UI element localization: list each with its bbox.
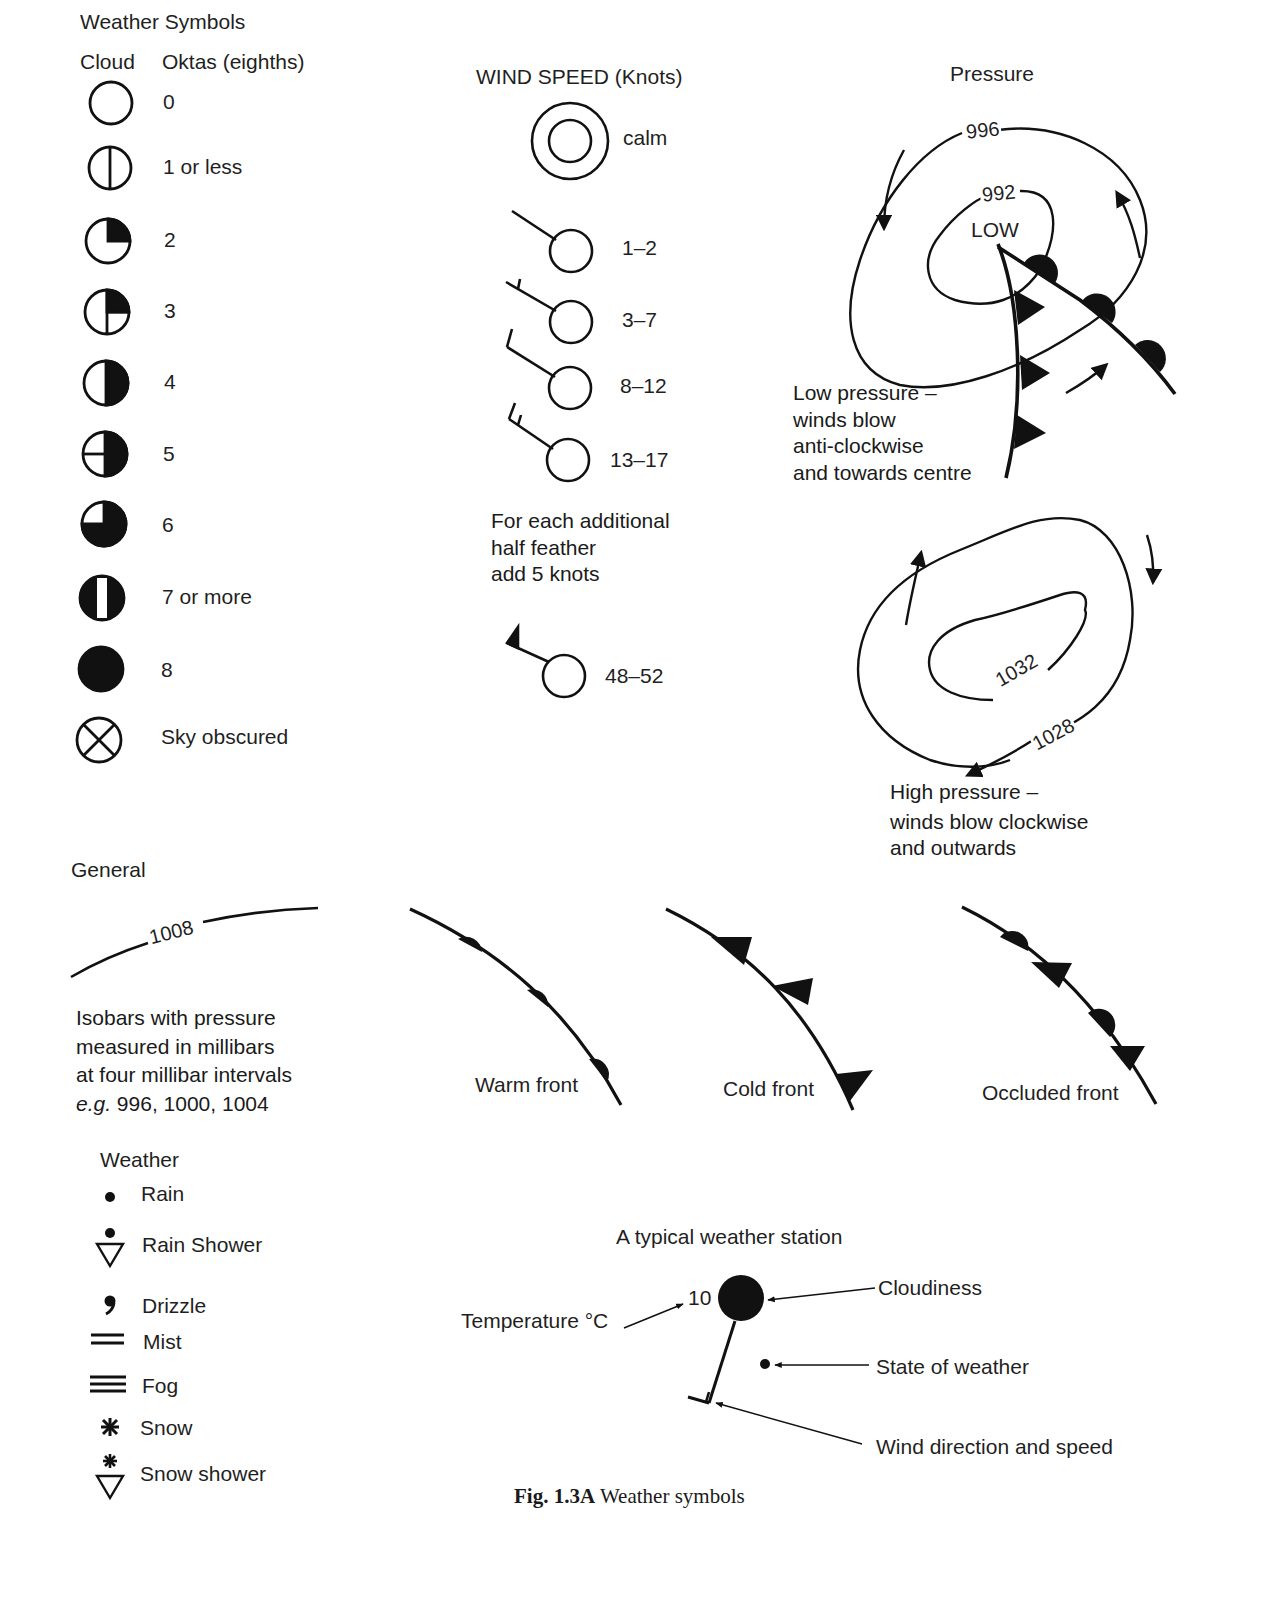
weather-label-snow: Snow	[140, 1415, 193, 1441]
low-centre-label: LOW	[971, 217, 1019, 243]
wind-barb-half-feather-icon	[506, 279, 592, 343]
wind-barb-pennant-icon	[507, 627, 585, 697]
wind-label-48-52: 48–52	[605, 663, 663, 689]
station-label-temperature: Temperature °C	[461, 1308, 608, 1334]
weather-label-rain-shower: Rain Shower	[142, 1232, 262, 1258]
circle-x-icon	[77, 718, 121, 762]
example-values: 996, 1000, 1004	[111, 1092, 269, 1115]
cloud-label-sky-obscured: Sky obscured	[161, 724, 288, 750]
mist-lines-icon	[91, 1335, 124, 1343]
circle-filled-white-bar-icon	[80, 576, 124, 620]
rain-shower-icon	[97, 1228, 123, 1266]
figure-number: Fig. 1.3A	[514, 1484, 595, 1508]
cloud-label-6: 6	[162, 512, 174, 538]
weather-label-mist: Mist	[143, 1329, 182, 1355]
circle-three-quarter-filled-icon	[82, 502, 126, 546]
wind-feather-note: For each additional half feather add 5 k…	[491, 508, 670, 588]
rain-dot-icon	[105, 1192, 115, 1202]
station-label-cloudiness: Cloudiness	[878, 1275, 982, 1301]
station-label-wind: Wind direction and speed	[876, 1434, 1113, 1460]
snow-asterisk-icon	[101, 1418, 119, 1436]
occluded-front-icon	[962, 907, 1156, 1104]
wind-barb-one-and-half-feather-icon	[509, 403, 589, 481]
general-title: General	[71, 857, 146, 883]
station-title: A typical weather station	[616, 1224, 842, 1250]
cloud-label-2: 2	[164, 227, 176, 253]
cloud-label-0: 0	[163, 89, 175, 115]
oktas-column-header: Oktas (eighths)	[162, 49, 304, 75]
figure-caption-text: Weather symbols	[595, 1484, 745, 1508]
cloud-label-3: 3	[164, 298, 176, 324]
isobar-label-992: 992	[979, 178, 1019, 208]
cloud-label-1: 1 or less	[163, 154, 242, 180]
fog-lines-icon	[90, 1377, 126, 1391]
station-weather-dot	[760, 1359, 770, 1369]
cloud-label-7: 7 or more	[162, 584, 252, 610]
cloud-label-4: 4	[164, 369, 176, 395]
snow-shower-icon	[97, 1454, 123, 1498]
circle-half-filled-horizontal-icon	[83, 432, 127, 476]
circle-quarter-filled-cross-icon	[85, 290, 129, 334]
drizzle-comma-icon	[105, 1296, 116, 1315]
circle-empty-icon	[90, 82, 132, 124]
weather-station-model	[624, 1275, 875, 1444]
low-pressure-description: Low pressure – winds blow anti-clockwise…	[793, 380, 972, 486]
double-circle-icon	[532, 103, 608, 179]
isobar-1008-line	[71, 908, 318, 977]
weather-label-fog: Fog	[142, 1373, 178, 1399]
wind-speed-title: WIND SPEED (Knots)	[476, 64, 683, 90]
station-cloudiness-circle	[718, 1275, 764, 1321]
circle-filled-icon	[79, 647, 123, 691]
figure-caption: Fig. 1.3A Weather symbols	[514, 1484, 745, 1509]
weather-title: Weather	[100, 1147, 179, 1173]
wind-label-8-12: 8–12	[620, 373, 667, 399]
wind-label-3-7: 3–7	[622, 307, 657, 333]
wind-label-1-2: 1–2	[622, 235, 657, 261]
high-pressure-diagram	[858, 518, 1153, 775]
isobar-label-996: 996	[963, 115, 1003, 145]
cloud-column-header: Cloud	[80, 49, 135, 75]
cloud-label-8: 8	[161, 657, 173, 683]
cloud-label-5: 5	[163, 441, 175, 467]
station-temperature-value: 10	[688, 1285, 711, 1311]
wind-label-13-17: 13–17	[610, 447, 668, 473]
isobar-description: Isobars with pressure measured in millib…	[76, 1005, 292, 1117]
high-pressure-description: High pressure – winds blow clockwise and…	[890, 779, 1088, 862]
wind-barb-no-feather-icon	[512, 211, 592, 272]
occluded-front-label: Occluded front	[982, 1080, 1119, 1106]
pressure-title: Pressure	[950, 61, 1034, 87]
station-label-state-of-weather: State of weather	[876, 1354, 1029, 1380]
weather-label-snow-shower: Snow shower	[140, 1461, 266, 1487]
page-title: Weather Symbols	[80, 9, 245, 35]
weather-label-rain: Rain	[141, 1181, 184, 1207]
cold-front-label: Cold front	[723, 1076, 814, 1102]
warm-front-label: Warm front	[475, 1072, 578, 1098]
example-prefix: e.g.	[76, 1092, 111, 1115]
circle-quarter-filled-icon	[86, 219, 130, 263]
circle-half-filled-icon	[84, 361, 128, 405]
circle-vertical-line-icon	[89, 147, 131, 189]
wind-label-calm: calm	[623, 125, 667, 151]
weather-label-drizzle: Drizzle	[142, 1293, 206, 1319]
